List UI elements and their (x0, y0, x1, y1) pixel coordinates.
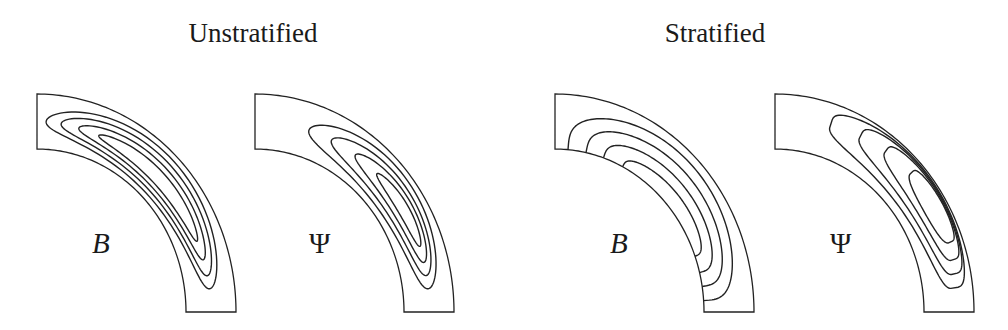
label-psi: Ψ (830, 227, 852, 259)
panel-unstratified-psi: Ψ (255, 94, 454, 312)
label-psi: Ψ (309, 227, 331, 259)
shell-boundary (555, 94, 754, 312)
panel-stratified-psi: Ψ (775, 94, 974, 312)
contour-lines-b (568, 119, 732, 301)
contour-figure: B Ψ B Ψ (0, 0, 1008, 330)
contour-lines-psi (830, 115, 965, 288)
label-b: B (610, 227, 628, 259)
label-b: B (92, 227, 110, 259)
contour-lines-psi (309, 125, 436, 288)
contour-line (61, 118, 211, 275)
contour-line (46, 112, 217, 289)
contour-lines-b (46, 112, 217, 289)
contour-line (568, 119, 732, 301)
shell-boundary (255, 94, 454, 312)
contour-line (99, 135, 198, 241)
panel-unstratified-b: B (37, 94, 236, 312)
panel-stratified-b: B (555, 94, 754, 312)
contour-line (586, 132, 722, 287)
shell-boundary (37, 94, 236, 312)
